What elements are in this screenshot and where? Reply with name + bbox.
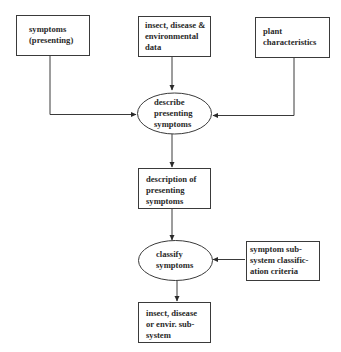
node-label-line: system classific- bbox=[250, 255, 309, 265]
node-label-line: symptoms bbox=[146, 196, 184, 206]
node-classify-symptoms: classify symptoms bbox=[139, 241, 213, 281]
node-describe-presenting-symptoms: describe presenting symptoms bbox=[138, 93, 212, 134]
node-label-line: system bbox=[146, 330, 172, 340]
node-label-line: ation criteria bbox=[250, 266, 299, 276]
node-label-line: symptoms bbox=[156, 260, 194, 270]
node-label-line: environmental bbox=[145, 31, 199, 41]
node-label-line: (presenting) bbox=[29, 35, 73, 45]
node-description-of-presenting-symptoms: description of presenting symptoms bbox=[139, 169, 211, 209]
node-label-line: insect, disease bbox=[146, 308, 197, 318]
node-symptoms-presenting: symptoms (presenting) bbox=[17, 16, 90, 56]
node-label-line: symptom sub- bbox=[250, 244, 302, 254]
node-label-line: presenting bbox=[154, 108, 193, 118]
node-label-line: classify bbox=[156, 249, 183, 259]
node-label-line: symptoms bbox=[154, 119, 192, 129]
node-label-line: describe bbox=[154, 97, 185, 107]
node-symptom-subsystem-criteria: symptom sub- system classific- ation cri… bbox=[247, 242, 320, 281]
node-label-line: or envir. sub- bbox=[146, 319, 195, 329]
edge-plant-to-describe bbox=[213, 57, 294, 116]
node-label-line: description of bbox=[146, 174, 197, 184]
node-insect-disease-envir-subsystem: insect, disease or envir. sub- system bbox=[139, 303, 211, 343]
node-insect-disease-env-data: insect, disease & environmental data bbox=[139, 17, 211, 57]
node-label-line: symptoms bbox=[29, 24, 67, 34]
node-plant-characteristics: plant characteristics bbox=[256, 18, 330, 58]
node-label-line: presenting bbox=[146, 185, 185, 195]
node-label-line: plant bbox=[263, 26, 282, 36]
node-label-line: data bbox=[145, 42, 162, 52]
node-label-line: characteristics bbox=[263, 37, 317, 47]
node-label-line: insect, disease & bbox=[145, 20, 205, 30]
flowchart: symptoms (presenting) insect, disease & … bbox=[0, 0, 341, 352]
edge-symptoms-to-describe bbox=[50, 56, 136, 115]
